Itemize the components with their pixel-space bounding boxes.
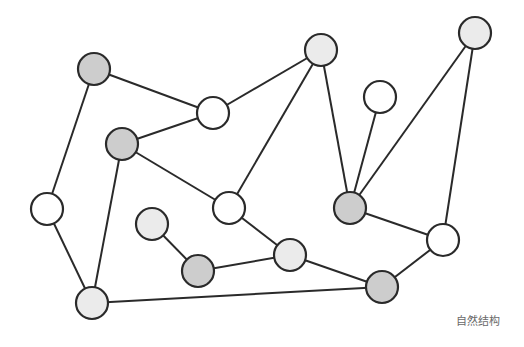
node-F xyxy=(334,192,366,224)
node-N xyxy=(136,208,168,240)
edge-C-I xyxy=(443,33,475,240)
edge-M-K xyxy=(92,287,382,303)
edge-D-E xyxy=(213,50,321,113)
node-I xyxy=(427,224,459,256)
node-C xyxy=(459,17,491,49)
edge-B-M xyxy=(92,144,122,303)
node-L xyxy=(31,193,63,225)
edge-G-F xyxy=(350,97,380,208)
node-E xyxy=(305,34,337,66)
node-B xyxy=(106,128,138,160)
node-K xyxy=(366,271,398,303)
node-A xyxy=(78,53,110,85)
diagram-caption: 自然结构 xyxy=(456,312,500,328)
graph-edges xyxy=(47,33,475,303)
network-graph xyxy=(0,0,524,347)
node-M xyxy=(76,287,108,319)
node-G xyxy=(364,81,396,113)
node-J xyxy=(274,239,306,271)
edge-E-F xyxy=(321,50,350,208)
node-O xyxy=(182,255,214,287)
node-H xyxy=(213,192,245,224)
edge-E-H xyxy=(229,50,321,208)
graph-nodes xyxy=(31,17,491,319)
edge-A-D xyxy=(94,69,213,113)
edge-B-H xyxy=(122,144,229,208)
edge-C-F xyxy=(350,33,475,208)
edge-A-L xyxy=(47,69,94,209)
node-D xyxy=(197,97,229,129)
